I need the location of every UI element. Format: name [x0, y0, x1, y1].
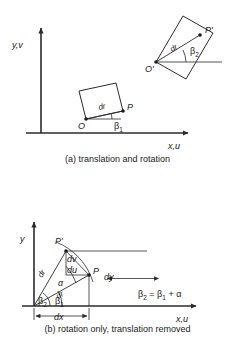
panel-a-label-o: O [78, 121, 85, 131]
panel-b-point-p-marker [87, 273, 91, 277]
panel-a-lower-dr-vector [86, 111, 123, 119]
panel-a-beta2-arc [183, 50, 186, 62]
panel-a-point-p-prime-marker [198, 33, 202, 37]
panel-b-y-axis-label: y [19, 234, 25, 244]
panel-b-label-alpha: α [58, 278, 64, 288]
panel-b-point-p-prime-marker [64, 249, 68, 253]
panel-a-x-axis-label: x,u [167, 141, 180, 151]
panel-b-label-du: du [67, 265, 77, 275]
panel-a-label-p: P [127, 102, 133, 112]
panel-b-rotation-only: y x,u P P' dr [0, 170, 235, 341]
panel-b-label-beta2: β2 [38, 296, 47, 308]
panel-a-label-beta1: β1 [114, 121, 123, 133]
panel-b-label-dx: dx [54, 312, 64, 322]
panel-a-label-o-prime: O' [145, 64, 154, 74]
panel-a-label-beta2: β2 [190, 46, 199, 58]
panel-a-label-dr-upper: dr [168, 42, 179, 54]
panel-a-caption: (a) translation and rotation [0, 154, 235, 164]
panel-b-label-dv: dv [67, 254, 77, 264]
panel-b-label-p-prime: P' [55, 236, 63, 246]
panel-a-point-o-prime-marker [154, 60, 158, 64]
panel-a-point-p-marker [121, 109, 125, 113]
panel-b-label-p: P [93, 266, 99, 276]
panel-a-y-axis-label: y,v [11, 40, 23, 50]
panel-a-label-p-prime: P' [205, 25, 213, 35]
panel-b-caption: (b) rotation only, translation removed [0, 324, 235, 334]
panel-a-lower-square [79, 83, 123, 119]
panel-a-translation-and-rotation: y,v x,u O P dr β1 O' P' dr β2 [0, 0, 235, 170]
panel-b-equation: β2 = β1 + α [138, 289, 181, 301]
panel-b-label-dy: dy [104, 272, 114, 282]
figure-container: y,v x,u O P dr β1 O' P' dr β2 (a) transl… [0, 0, 235, 341]
panel-b-x-axis-label: x,u [175, 314, 188, 324]
panel-b-label-dr-rotated: dr [36, 268, 48, 279]
panel-a-label-dr-lower: dr [98, 102, 107, 112]
